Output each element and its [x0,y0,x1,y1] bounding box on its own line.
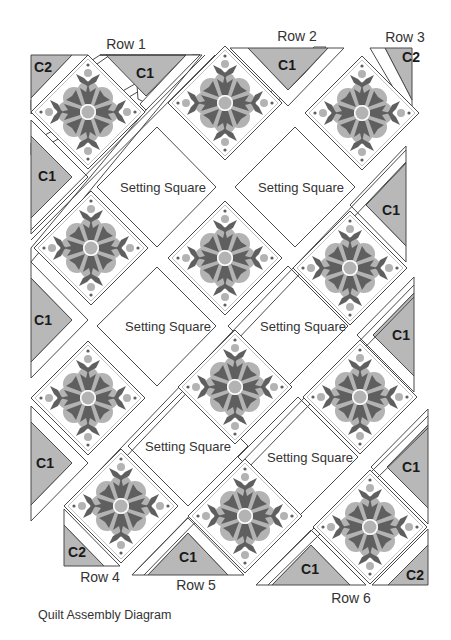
triangle-label-c1: C1 [38,169,56,183]
setting-square-label: Setting Square [125,320,211,333]
triangle-label-c2: C2 [402,50,420,64]
setting-square-label: Setting Square [258,181,344,194]
row-label-2: Row 2 [277,29,317,43]
triangle-label-c2: C2 [68,545,86,559]
row-label-6: Row 6 [331,591,371,605]
triangle-label-c1: C1 [36,456,54,470]
row-label-1: Row 1 [106,37,146,51]
applique-blocks [31,46,427,584]
triangle-label-c2: C2 [34,60,52,74]
triangle-label-c1: C1 [179,550,197,564]
setting-square-label: Setting Square [267,451,353,464]
triangle-label-c2: C2 [406,568,424,582]
row-label-3: Row 3 [385,30,425,44]
row-label-5: Row 5 [176,578,216,592]
triangle-label-c1: C1 [136,66,154,80]
diagram-caption: Quilt Assembly Diagram [38,608,171,622]
triangle-label-c1: C1 [34,313,52,327]
triangle-label-c1: C1 [402,460,420,474]
setting-square-label: Setting Square [145,440,231,453]
row-label-4: Row 4 [80,570,120,584]
triangle-label-c1: C1 [301,562,319,576]
triangle-label-c1: C1 [278,58,296,72]
setting-square-label: Setting Square [120,181,206,194]
triangle-label-c1: C1 [392,328,410,342]
setting-square-label: Setting Square [260,320,346,333]
triangle-label-c1: C1 [382,203,400,217]
